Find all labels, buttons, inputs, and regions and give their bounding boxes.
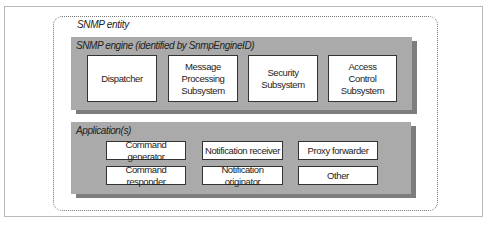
applications-label: Application(s) bbox=[76, 125, 131, 136]
access-control-subsystem-box: Access Control Subsystem bbox=[328, 55, 397, 102]
message-processing-subsystem-box: Message Processing Subsystem bbox=[168, 55, 238, 102]
security-subsystem-box: Security Subsystem bbox=[248, 55, 318, 102]
notification-receiver-box: Notification receiver bbox=[202, 141, 283, 160]
snmp-engine-label: SNMP engine (identified by SnmpEngineID) bbox=[76, 40, 254, 51]
snmp-entity-label: SNMP entity bbox=[77, 19, 129, 30]
command-responder-box: Command responder bbox=[106, 166, 186, 185]
notification-originator-box: Notification originator bbox=[202, 166, 283, 185]
command-generator-box: Command generator bbox=[106, 141, 186, 160]
proxy-forwarder-box: Proxy forwarder bbox=[298, 141, 378, 160]
dispatcher-box: Dispatcher bbox=[87, 55, 157, 102]
other-box: Other bbox=[298, 166, 378, 185]
